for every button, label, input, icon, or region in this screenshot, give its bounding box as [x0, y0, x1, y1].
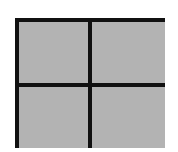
grid-cell-top-left — [19, 22, 88, 83]
grid-cell-bottom-right — [92, 87, 165, 148]
grid-cell-bottom-left — [19, 87, 88, 148]
canvas — [0, 0, 178, 152]
four-pane-grid-icon — [15, 18, 165, 148]
grid-cell-top-right — [92, 22, 165, 83]
